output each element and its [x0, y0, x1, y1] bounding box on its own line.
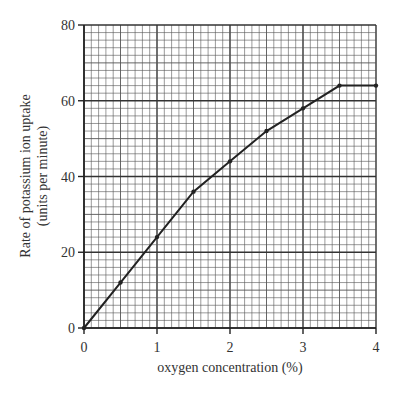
data-point	[264, 129, 268, 133]
data-point	[82, 326, 86, 330]
y-tick-label: 40	[61, 170, 75, 185]
x-tick-label: 2	[227, 340, 234, 355]
x-tick-label: 1	[154, 340, 161, 355]
axes	[78, 25, 376, 334]
data-point	[118, 280, 122, 284]
y-tick-label: 0	[68, 321, 75, 336]
y-tick-label: 60	[61, 94, 75, 109]
tick-labels: 01234020406080	[61, 18, 380, 355]
x-tick-label: 3	[300, 340, 307, 355]
data-point	[155, 235, 159, 239]
data-point	[301, 106, 305, 110]
graph-paper-grid	[84, 25, 376, 328]
y-tick-label: 80	[61, 18, 75, 33]
x-tick-label: 4	[373, 340, 380, 355]
data-point	[374, 83, 378, 87]
data-point	[228, 159, 232, 163]
x-tick-label: 0	[81, 340, 88, 355]
y-axis-units: (units per minute)	[35, 126, 51, 227]
line-chart: 01234020406080 oxygen concentration (%) …	[0, 0, 395, 401]
x-axis-label: oxygen concentration (%)	[157, 360, 303, 376]
data-point	[337, 83, 341, 87]
y-tick-label: 20	[61, 245, 75, 260]
data-point	[191, 189, 195, 193]
y-axis-label: Rate of potassium ion uptake	[18, 94, 33, 257]
